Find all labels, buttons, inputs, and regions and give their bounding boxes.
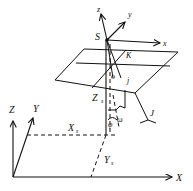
j-label: j <box>126 76 130 85</box>
geometry-diagram: X Z Y z y x S K o j Z s φ ω <box>0 0 193 191</box>
world-x-label: X <box>175 172 183 183</box>
world-y-axis <box>13 118 33 177</box>
zs-label-sub: s <box>101 98 104 104</box>
zs-label-main: Z <box>92 92 98 103</box>
sensor-point <box>105 38 109 42</box>
world-z-label: Z <box>9 104 15 115</box>
local-z-axis <box>101 14 107 40</box>
xs-label-main: X <box>67 122 75 133</box>
local-y-axis <box>107 22 125 40</box>
world-axes <box>13 118 172 177</box>
phi-label: φ <box>108 120 113 129</box>
ys-label-main: Y <box>104 154 111 165</box>
origin-label: o <box>111 72 115 81</box>
world-y-label: Y <box>33 103 40 114</box>
image-plane <box>55 49 178 93</box>
local-z-label: z <box>96 5 101 14</box>
local-x-label: x <box>162 39 167 48</box>
omega-label: ω <box>117 115 123 124</box>
j-curve-label: J <box>150 108 155 118</box>
ys-label-sub: s <box>111 160 114 166</box>
xs-label-sub: s <box>76 128 79 134</box>
kappa-label: K <box>125 51 132 60</box>
local-x-axis <box>107 40 160 43</box>
local-y-label: y <box>127 10 132 19</box>
sensor-label: S <box>95 31 100 42</box>
projection-structure <box>108 90 156 123</box>
